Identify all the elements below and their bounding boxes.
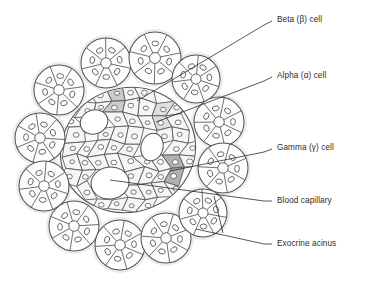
cell-nucleus — [190, 146, 195, 150]
acinar-cell-nucleus — [207, 74, 213, 81]
acinar-cell-nucleus — [177, 235, 182, 242]
cell-nucleus — [82, 160, 88, 165]
acinar-lumen — [191, 74, 201, 84]
acinar-lumen — [198, 208, 208, 218]
exocrine-acinus-6 — [198, 143, 248, 193]
cell-nucleus — [128, 90, 134, 95]
acinar-cell-nucleus — [39, 197, 46, 202]
cell-nucleus — [99, 105, 104, 109]
acinar-lumen — [35, 133, 46, 144]
cell-nucleus — [128, 103, 134, 108]
cell-nucleus — [131, 190, 136, 194]
cell-nucleus — [128, 174, 134, 179]
cell-nucleus — [70, 146, 75, 150]
cell-nucleus — [161, 107, 167, 112]
cell-nucleus — [129, 119, 135, 124]
acinar-lumen — [39, 181, 50, 192]
cell-nucleus — [143, 106, 148, 110]
cell-nucleus — [171, 174, 177, 179]
acinar-cell-nucleus — [23, 134, 28, 141]
cell-nucleus — [129, 204, 134, 208]
cell-nucleus — [118, 133, 123, 137]
cell-nucleus — [83, 175, 89, 180]
cell-nucleus — [132, 134, 138, 139]
cell-nucleus — [187, 159, 193, 164]
cell-nucleus — [84, 147, 90, 152]
acinar-cell-nucleus — [200, 224, 207, 229]
label-alpha: Alpha (α) cell — [277, 71, 326, 81]
acinar-cell-nucleus — [57, 73, 64, 78]
acinar-cell-nucleus — [103, 75, 110, 80]
cell-nucleus — [115, 117, 120, 121]
cell-nucleus — [111, 146, 117, 151]
cell-nucleus — [84, 190, 90, 195]
acinar-lumen — [115, 240, 126, 251]
acinar-cell-nucleus — [160, 221, 167, 227]
exocrine-acinus-8 — [49, 201, 99, 251]
acinar-lumen — [218, 163, 229, 174]
cell-nucleus — [145, 203, 150, 207]
acinar-cell-nucleus — [42, 88, 48, 95]
cell-nucleus — [141, 90, 147, 95]
acinar-cell-nucleus — [39, 149, 46, 155]
cell-nucleus — [175, 120, 181, 125]
acinar-cell-nucleus — [55, 180, 61, 187]
exocrine-acinus-5 — [15, 113, 65, 163]
cell-nucleus — [112, 105, 118, 110]
acinar-lumen — [101, 58, 112, 69]
cell-nucleus — [128, 159, 134, 164]
exocrine-acinus-9 — [95, 220, 145, 270]
acinar-lumen — [150, 53, 161, 64]
cell-nucleus — [177, 132, 182, 136]
acinar-cell-nucleus — [57, 223, 62, 230]
cell-nucleus — [98, 145, 104, 150]
cell-nucleus — [114, 202, 119, 206]
cell-nucleus — [70, 160, 75, 164]
cell-nucleus — [98, 203, 104, 208]
acinar-cell-nucleus — [73, 209, 80, 215]
figure-root: Beta (β) cellAlpha (α) cellGamma (γ) cel… — [0, 0, 366, 285]
acinar-cell-nucleus — [231, 118, 236, 125]
cell-nucleus — [103, 132, 108, 136]
label-beta: Beta (β) cell — [277, 15, 322, 25]
cell-nucleus — [158, 175, 164, 180]
acinar-lumen — [54, 85, 65, 96]
label-gamma: Gamma (γ) cell — [277, 143, 334, 153]
acinar-cell-nucleus — [152, 41, 159, 46]
acinar-cell-nucleus — [131, 241, 136, 248]
cell-nucleus — [145, 121, 150, 125]
cell-nucleus — [158, 159, 164, 164]
acinar-lumen — [69, 221, 80, 232]
cell-nucleus — [96, 161, 102, 166]
cell-nucleus — [172, 160, 178, 165]
cell-nucleus — [146, 173, 152, 178]
cell-nucleus — [115, 91, 120, 95]
acinar-lumen — [214, 117, 225, 128]
cell-nucleus — [73, 133, 79, 138]
cell-nucleus — [127, 147, 133, 152]
exocrine-acinus-2 — [172, 55, 220, 103]
exocrine-acinus-7 — [19, 161, 69, 211]
acinus-cell-border — [154, 63, 155, 84]
exocrine-acinus-3 — [34, 65, 84, 115]
exocrine-acinus-11 — [179, 189, 227, 237]
exocrine-acinus-0 — [81, 38, 131, 88]
acinar-lumen — [161, 233, 172, 244]
cell-nucleus — [111, 160, 117, 165]
cell-nucleus — [162, 134, 168, 139]
label-acinus: Exocrine acinus — [277, 239, 336, 249]
cell-nucleus — [173, 147, 179, 152]
cell-nucleus — [158, 188, 163, 192]
cell-nucleus — [146, 190, 151, 194]
acinar-cell-nucleus — [234, 165, 239, 172]
label-capillary: Blood capillary — [277, 196, 332, 206]
acinar-cell-nucleus — [191, 90, 198, 95]
